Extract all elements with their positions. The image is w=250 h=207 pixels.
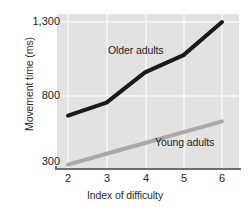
y-tick-label-1300: 1,300 — [18, 15, 60, 27]
x-axis-title: Index of difficulty — [0, 189, 250, 201]
x-tick-label-2: 2 — [58, 172, 78, 184]
y-tick-label-800: 800 — [18, 89, 60, 101]
chart-figure: Movement time (ms) 1,300 — [0, 0, 250, 207]
x-tick-label-5: 5 — [174, 172, 194, 184]
x-axis-line — [55, 168, 241, 170]
x-tick-label-4: 4 — [136, 172, 156, 184]
series-label-older-adults: Older adults — [108, 44, 163, 56]
x-tick-label-3: 3 — [97, 172, 117, 184]
x-tick-label-6: 6 — [212, 172, 232, 184]
y-tick-label-300: 300 — [18, 155, 60, 167]
series-label-young-adults: Young adults — [155, 136, 214, 148]
y-axis-title: Movement time (ms) — [23, 9, 35, 159]
